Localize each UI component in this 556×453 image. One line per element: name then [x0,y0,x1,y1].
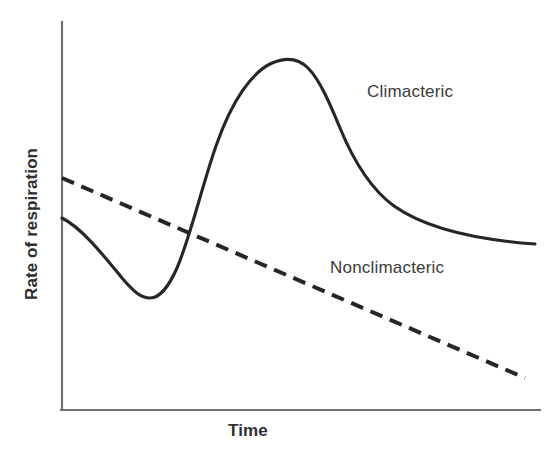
respiration-climacteric-chart: Climacteric Nonclimacteric Rate of respi… [0,0,556,453]
climacteric-series-line [62,59,535,298]
climacteric-series-label: Climacteric [367,82,453,102]
nonclimacteric-series-label: Nonclimacteric [330,258,444,278]
chart-canvas [0,0,556,453]
nonclimacteric-series-line [62,178,525,378]
y-axis-title: Rate of respiration [22,148,42,300]
x-axis-title: Time [0,421,526,441]
